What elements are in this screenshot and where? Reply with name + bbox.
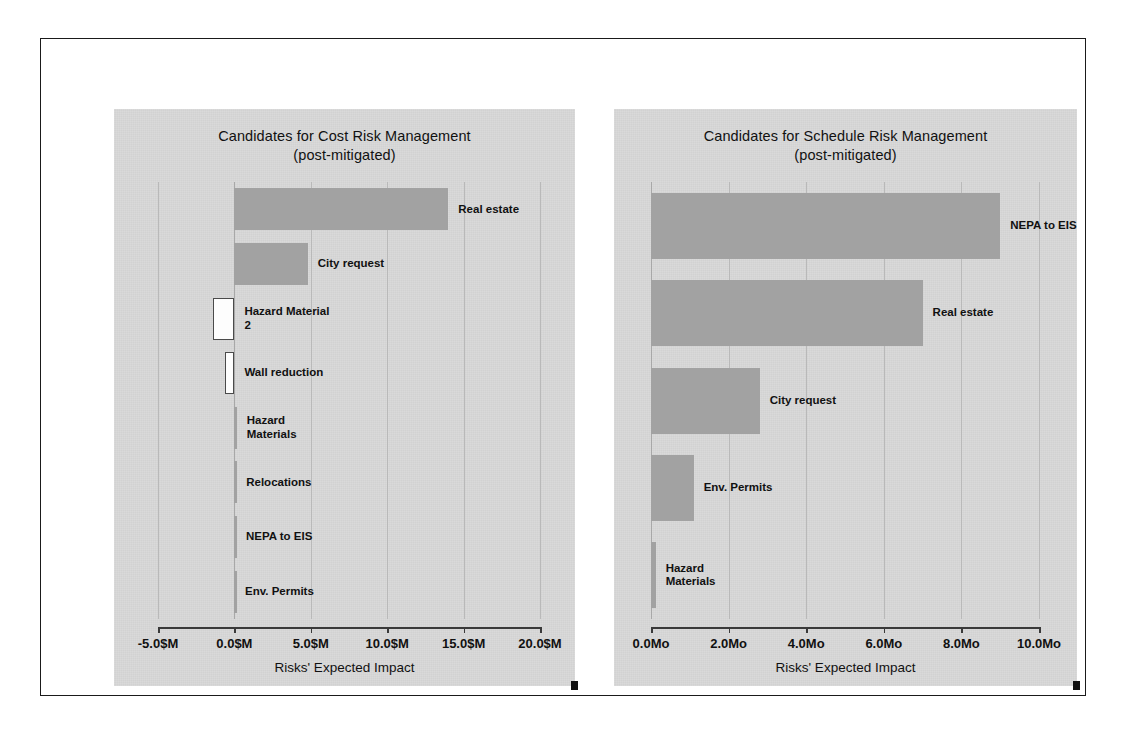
bar[interactable] (651, 193, 1000, 259)
chart-panel-cost-risk[interactable]: Candidates for Cost Risk Management (pos… (114, 109, 575, 686)
x-axis-tick (1039, 627, 1041, 633)
bar-label: City request (318, 257, 384, 271)
bar-label: City request (770, 394, 836, 408)
x-axis-tick-label: 6.0Mo (865, 636, 902, 651)
gridline (158, 182, 159, 619)
x-axis-tick-label: 2.0Mo (710, 636, 747, 651)
bar-label: Real estate (933, 306, 994, 320)
x-axis-tick-label: 0.0$M (216, 636, 252, 651)
gridline (387, 182, 388, 619)
x-axis-tick (884, 627, 886, 633)
x-axis-tick (464, 627, 466, 633)
chart-title-schedule: Candidates for Schedule Risk Management … (614, 127, 1077, 165)
slide-frame: Candidates for Cost Risk Management (pos… (40, 38, 1086, 696)
x-axis-tick-label: 5.0$M (293, 636, 329, 651)
chart-title-cost-line1: Candidates for Cost Risk Management (218, 128, 471, 144)
x-axis-tick (651, 627, 653, 633)
x-axis-tick (311, 627, 313, 633)
x-axis-tick (540, 627, 542, 633)
bar-label: Env. Permits (245, 585, 314, 599)
x-axis-tick (234, 627, 236, 633)
bar[interactable] (651, 280, 923, 346)
chart-title-schedule-line1: Candidates for Schedule Risk Management (704, 128, 988, 144)
bar[interactable] (234, 571, 237, 613)
x-axis-tick-label: -5.0$M (138, 636, 178, 651)
bar[interactable] (234, 461, 237, 503)
bar-label: Relocations (246, 476, 311, 490)
chart-title-schedule-line2: (post-mitigated) (614, 146, 1077, 165)
x-axis-line (158, 627, 540, 629)
chart-panel-schedule-risk[interactable]: Candidates for Schedule Risk Management … (614, 109, 1077, 686)
bar-label: NEPA to EIS (1010, 219, 1076, 233)
bar-label: Real estate (458, 203, 519, 217)
x-axis-tick (387, 627, 389, 633)
x-axis-tick-label: 10.0$M (366, 636, 409, 651)
bar-label: NEPA to EIS (246, 530, 312, 544)
bar-label: Wall reduction (244, 366, 323, 380)
bar-label: Hazard Materials (666, 562, 716, 589)
bar[interactable] (651, 368, 760, 434)
bar[interactable] (234, 243, 307, 285)
x-axis-tick (961, 627, 963, 633)
chart-title-cost-line2: (post-mitigated) (114, 146, 575, 165)
selection-handle-cost[interactable] (571, 681, 578, 690)
bar[interactable] (225, 352, 234, 394)
bar[interactable] (234, 188, 448, 230)
bar[interactable] (651, 455, 694, 521)
x-axis-title: Risks' Expected Impact (114, 660, 575, 675)
gridline (1039, 182, 1040, 619)
bar[interactable] (234, 516, 237, 558)
x-axis-line (651, 627, 1039, 629)
x-axis-title: Risks' Expected Impact (614, 660, 1077, 675)
x-axis-tick (158, 627, 160, 633)
x-axis-tick-label: 0.0Mo (633, 636, 670, 651)
bar[interactable] (234, 407, 237, 449)
x-axis-tick-label: 8.0Mo (943, 636, 980, 651)
bar[interactable] (213, 298, 234, 340)
selection-handle-schedule[interactable] (1073, 681, 1080, 690)
bar-label: Hazard Material 2 (244, 305, 329, 332)
x-axis-tick (729, 627, 731, 633)
chart-title-cost: Candidates for Cost Risk Management (pos… (114, 127, 575, 165)
x-axis-tick-label: 4.0Mo (788, 636, 825, 651)
x-axis-tick-label: 10.0Mo (1017, 636, 1061, 651)
gridline (540, 182, 541, 619)
gridline (464, 182, 465, 619)
gridline (311, 182, 312, 619)
plot-area-cost (158, 182, 540, 619)
bar-label: Hazard Materials (247, 414, 297, 441)
x-axis-tick (806, 627, 808, 633)
bar[interactable] (651, 542, 656, 608)
bar-label: Env. Permits (704, 481, 773, 495)
x-axis-tick-label: 20.0$M (518, 636, 561, 651)
x-axis-tick-label: 15.0$M (442, 636, 485, 651)
